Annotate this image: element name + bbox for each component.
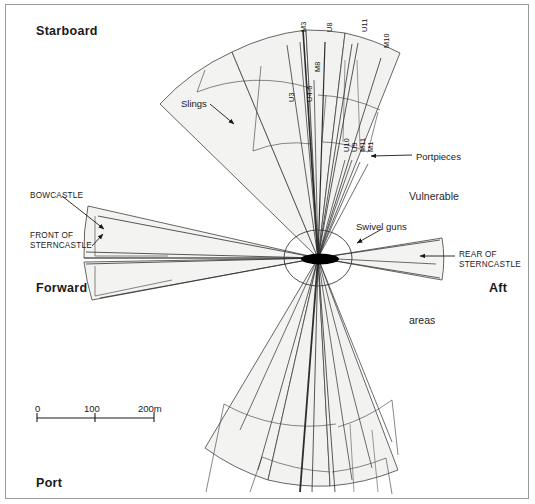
- diagram-page: Starboard Forward Aft Port Slings BOWCAS…: [0, 0, 535, 504]
- label-aft: Aft: [489, 281, 507, 295]
- gun-label-m8: M8: [313, 61, 322, 72]
- scale-label-100: 100: [84, 403, 100, 414]
- label-port: Port: [36, 476, 62, 490]
- note-areas: areas: [409, 314, 435, 326]
- gun-label-u8: U8: [325, 22, 334, 32]
- sector-group-port: [205, 258, 398, 494]
- callout-slings: Slings: [181, 98, 207, 109]
- callout-sterncastle: STERNCASTLE: [30, 240, 92, 251]
- callout-bowcastle: BOWCASTLE: [30, 190, 83, 201]
- scale-label-0: 0: [35, 403, 40, 414]
- leader-portpieces: [371, 155, 412, 156]
- gun-label-u4-6: U4-6: [305, 85, 314, 102]
- sector-port-c: [318, 258, 398, 486]
- scale-label-200m: 200m: [138, 403, 162, 414]
- label-starboard: Starboard: [36, 24, 98, 38]
- gun-label-m10: M10: [382, 33, 391, 48]
- callout-swivel-guns: Swivel guns: [356, 221, 407, 232]
- gun-label-u3: U3: [287, 92, 296, 102]
- arcs-of-fire-drawing: [0, 0, 535, 504]
- callout-rear-sterncastle: STERNCASTLE: [459, 259, 521, 270]
- gun-label-m3: M3: [299, 21, 308, 32]
- ship-hull-marker: [301, 254, 339, 265]
- note-vulnerable: Vulnerable: [409, 190, 459, 202]
- callout-portpieces: Portpieces: [416, 151, 461, 162]
- label-forward: Forward: [36, 281, 87, 295]
- gun-label-m1: M1: [366, 141, 375, 152]
- gun-label-u11: U11: [360, 19, 369, 32]
